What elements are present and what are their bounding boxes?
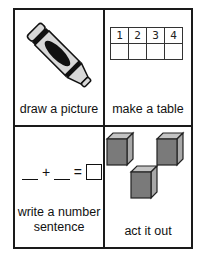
cubes-icon bbox=[105, 127, 191, 222]
equals-sign: = bbox=[74, 164, 82, 180]
cell-label: make a table bbox=[105, 102, 191, 117]
table-cell bbox=[165, 44, 183, 60]
cell-label: write a number sentence bbox=[15, 205, 103, 235]
table-header-cell: 4 bbox=[165, 28, 183, 44]
table-header-cell: 3 bbox=[147, 28, 165, 44]
table-cell bbox=[111, 44, 129, 60]
table-cell bbox=[129, 44, 147, 60]
cell-act-it-out: act it out bbox=[105, 127, 191, 247]
cell-make-a-table: 1 2 3 4 make a table bbox=[105, 10, 191, 125]
cell-label: draw a picture bbox=[15, 102, 103, 117]
answer-box bbox=[86, 164, 102, 180]
cell-write-a-number-sentence: + = write a number sentence bbox=[15, 127, 103, 247]
table-icon: 1 2 3 4 bbox=[110, 27, 183, 60]
blank bbox=[22, 167, 38, 180]
strategy-grid: draw a picture 1 2 3 4 make a table bbox=[13, 8, 193, 249]
plus-sign: + bbox=[42, 164, 50, 180]
crayon-icon bbox=[21, 16, 101, 98]
cell-label: act it out bbox=[105, 224, 191, 239]
table-header-cell: 1 bbox=[111, 28, 129, 44]
blank bbox=[54, 167, 70, 180]
table-header-cell: 2 bbox=[129, 28, 147, 44]
cell-draw-a-picture: draw a picture bbox=[15, 10, 103, 125]
table-cell bbox=[147, 44, 165, 60]
number-sentence-icon: + = bbox=[22, 164, 102, 180]
